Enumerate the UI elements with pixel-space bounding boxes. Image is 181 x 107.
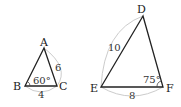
- vertex-c-label: C: [59, 80, 67, 93]
- triangle-diagram: A B C 6 4 60° D E F 10 8 75°: [0, 0, 181, 107]
- angle-f-label: 75°: [143, 74, 161, 85]
- side-ef-label: 8: [129, 90, 135, 101]
- side-de-label: 10: [108, 42, 121, 53]
- triangle-abc: A B C 6 4 60°: [13, 36, 67, 100]
- angle-b-arc: [28, 82, 31, 87]
- vertex-b-label: B: [13, 80, 21, 93]
- vertex-d-label: D: [137, 3, 146, 16]
- vertex-e-label: E: [90, 82, 98, 95]
- triangle-def: D E F 10 8 75°: [90, 3, 174, 101]
- side-bc-label: 4: [38, 89, 44, 100]
- angle-b-label: 60°: [33, 75, 51, 86]
- side-ac-label: 6: [55, 62, 61, 73]
- vertex-f-label: F: [166, 82, 174, 95]
- vertex-a-label: A: [39, 36, 49, 49]
